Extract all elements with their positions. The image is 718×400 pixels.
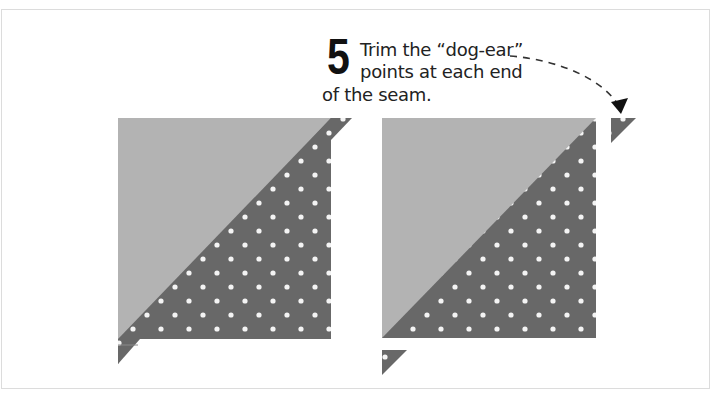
- trimmed-dog-ear-top: [611, 118, 636, 143]
- dashed-arrow: [510, 56, 620, 108]
- arrowhead-icon: [611, 98, 628, 114]
- block-after-trim: [382, 118, 636, 375]
- trimmed-dog-ear-bottom: [382, 350, 407, 375]
- block-before-trim: [118, 118, 352, 364]
- illustration: [0, 0, 718, 400]
